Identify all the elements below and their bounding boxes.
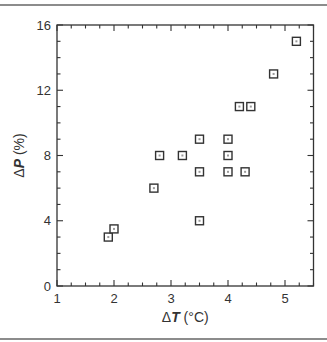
- data-point-marker: [178, 152, 186, 160]
- tick-labels: 123450481216: [37, 18, 289, 307]
- data-point-marker: [224, 135, 232, 143]
- y-axis-title: ΔP (%): [11, 133, 27, 177]
- x-axis-title: ΔT (°C): [162, 309, 209, 325]
- data-point-marker: [150, 184, 158, 192]
- x-tick-label: 2: [110, 291, 117, 306]
- x-tick-label: 3: [167, 291, 174, 306]
- data-point-marker: [104, 233, 112, 241]
- data-points: [104, 37, 300, 241]
- data-point-marker: [156, 152, 164, 160]
- y-tick-label: 12: [37, 83, 51, 98]
- data-point-marker: [224, 168, 232, 176]
- y-tick-label: 8: [44, 148, 51, 163]
- scatter-chart: 123450481216 ΔT (°C) ΔP (%): [0, 0, 327, 342]
- data-point-marker: [110, 225, 118, 233]
- data-point-marker: [235, 103, 243, 111]
- data-point-marker: [196, 135, 204, 143]
- data-point-marker: [241, 168, 249, 176]
- data-point-marker: [196, 217, 204, 225]
- y-tick-label: 4: [44, 213, 51, 228]
- x-tick-label: 5: [281, 291, 288, 306]
- y-tick-label: 16: [37, 18, 51, 33]
- x-tick-label: 1: [53, 291, 60, 306]
- data-point-marker: [270, 70, 278, 78]
- data-point-marker: [292, 37, 300, 45]
- data-point-marker: [196, 168, 204, 176]
- data-point-marker: [247, 103, 255, 111]
- y-tick-label: 0: [44, 279, 51, 294]
- data-point-marker: [224, 152, 232, 160]
- x-tick-label: 4: [224, 291, 231, 306]
